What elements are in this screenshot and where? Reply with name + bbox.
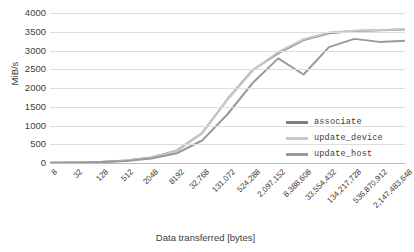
legend-item-label: update_host [314, 149, 372, 159]
y-axis-tick-label: 3500 [2, 27, 46, 37]
legend-color-swatch [286, 137, 308, 140]
gridline [50, 69, 405, 70]
x-axis-title: Data transferred [bytes] [0, 232, 411, 243]
gridline [50, 32, 405, 33]
y-axis-tick-label: 500 [2, 139, 46, 149]
y-axis-tick-label: 2000 [2, 83, 46, 93]
legend-item[interactable]: update_host [286, 146, 411, 162]
legend-item-label: associate [314, 117, 362, 127]
y-axis-tick-label: 2500 [2, 64, 46, 74]
legend-color-swatch [286, 121, 308, 124]
gridline [50, 13, 405, 14]
y-axis-tick-label: 1500 [2, 102, 46, 112]
y-axis-tick-label: 3000 [2, 46, 46, 56]
gridline [50, 51, 405, 52]
legend-item-label: update_device [314, 133, 383, 143]
x-axis-line [50, 163, 405, 164]
y-axis-tick-label: 0 [2, 158, 46, 168]
legend-item[interactable]: associate [286, 114, 411, 130]
legend-color-swatch [286, 153, 308, 156]
chart-legend: associateupdate_deviceupdate_host [286, 114, 411, 162]
y-axis-tick-label: 4000 [2, 8, 46, 18]
y-axis-tick-label: 1000 [2, 121, 46, 131]
gridline [50, 107, 405, 108]
legend-item[interactable]: update_device [286, 130, 411, 146]
gridline [50, 88, 405, 89]
